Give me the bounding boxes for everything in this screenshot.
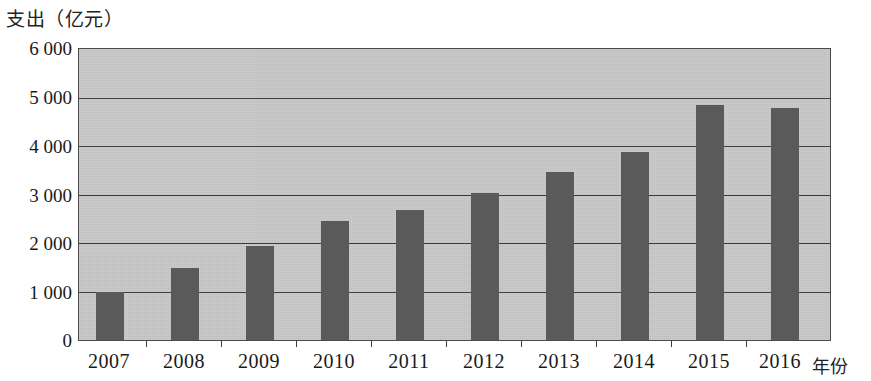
x-axis-title: 年份 bbox=[812, 352, 848, 378]
y-tick-label: 2 000 bbox=[0, 233, 72, 255]
bar-2016 bbox=[771, 108, 799, 340]
y-tick-label: 1 000 bbox=[0, 282, 72, 304]
y-tick-label: 6 000 bbox=[0, 38, 72, 60]
y-tick-label: 0 bbox=[0, 330, 72, 352]
x-tick bbox=[146, 341, 147, 347]
x-tick bbox=[521, 341, 522, 347]
x-tick bbox=[446, 341, 447, 347]
bar-2011 bbox=[396, 210, 424, 340]
bar-2013 bbox=[546, 172, 574, 340]
x-tick-label-2012: 2012 bbox=[449, 350, 519, 373]
x-tick bbox=[221, 341, 222, 347]
x-tick bbox=[671, 341, 672, 347]
y-tick-label: 3 000 bbox=[0, 185, 72, 207]
x-tick bbox=[296, 341, 297, 347]
x-tick-label-2009: 2009 bbox=[224, 350, 294, 373]
y-tick-label: 4 000 bbox=[0, 136, 72, 158]
bar-2015 bbox=[696, 105, 724, 340]
bar-2012 bbox=[471, 193, 499, 340]
bar-2007 bbox=[96, 292, 124, 341]
x-tick-label-2015: 2015 bbox=[674, 350, 744, 373]
x-tick-label-2013: 2013 bbox=[524, 350, 594, 373]
x-tick-label-2016: 2016 bbox=[745, 350, 815, 373]
bar-2014 bbox=[621, 152, 649, 340]
x-tick bbox=[371, 341, 372, 347]
x-tick-label-2007: 2007 bbox=[74, 350, 144, 373]
x-tick-label-2011: 2011 bbox=[374, 350, 444, 373]
x-tick-label-2008: 2008 bbox=[149, 350, 219, 373]
x-tick-label-2010: 2010 bbox=[299, 350, 369, 373]
bar-2008 bbox=[171, 268, 199, 340]
bar-chart: 支出（亿元） 6 000 5 000 4 000 3 000 2 000 1 0… bbox=[0, 0, 871, 381]
x-tick-label-2014: 2014 bbox=[599, 350, 669, 373]
x-tick bbox=[596, 341, 597, 347]
bar-2010 bbox=[321, 221, 349, 340]
bar-2009 bbox=[246, 246, 274, 340]
plot-area bbox=[78, 48, 831, 341]
x-tick bbox=[746, 341, 747, 347]
gridline-5000 bbox=[79, 98, 830, 99]
y-tick-label: 5 000 bbox=[0, 87, 72, 109]
y-axis-tick-labels: 6 000 5 000 4 000 3 000 2 000 1 000 0 bbox=[0, 0, 72, 381]
